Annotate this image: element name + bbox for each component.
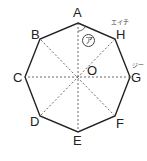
vertex-label-e: E bbox=[73, 134, 82, 147]
center-label-o: O bbox=[87, 64, 97, 77]
angle-arc bbox=[78, 27, 85, 31]
vertex-label-a: A bbox=[73, 6, 82, 19]
vertex-label-f: F bbox=[116, 117, 124, 130]
ruby-h: エイチ bbox=[111, 19, 129, 25]
vertex-label-b: B bbox=[31, 28, 40, 41]
vertex-label-d: D bbox=[30, 115, 39, 128]
ruby-g: ジー bbox=[132, 62, 144, 68]
vertex-label-h: H bbox=[116, 28, 125, 41]
vertex-label-c: C bbox=[13, 71, 22, 84]
vertex-label-g: G bbox=[131, 71, 141, 84]
angle-mark-a: ア bbox=[82, 34, 95, 47]
